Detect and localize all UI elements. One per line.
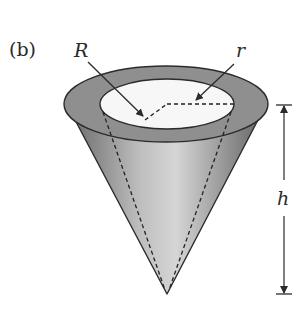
cone-body	[74, 118, 259, 294]
height-label: h	[277, 187, 289, 209]
panel-label: (b)	[9, 38, 36, 60]
cone-diagram: (b) R r h	[0, 0, 307, 322]
outer-radius-label: R	[73, 39, 88, 61]
inner-radius-label: r	[236, 39, 247, 61]
